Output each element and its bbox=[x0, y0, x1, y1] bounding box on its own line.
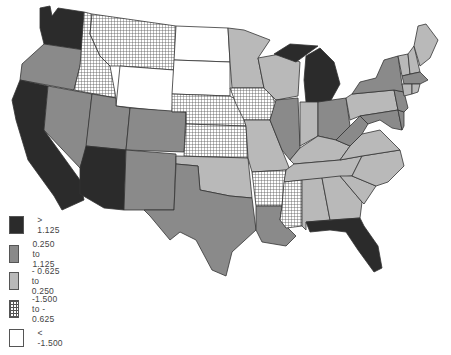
legend-item-5: < -1.500 bbox=[9, 328, 65, 348]
state-ar bbox=[252, 170, 286, 206]
state-fl bbox=[306, 218, 382, 272]
state-ks bbox=[184, 124, 248, 158]
legend-label: > 1.125 bbox=[37, 215, 62, 235]
legend-label: -1.500 to - 0.625 bbox=[32, 294, 65, 324]
state-nd bbox=[174, 26, 230, 62]
state-nm bbox=[124, 150, 176, 210]
state-co bbox=[126, 108, 186, 152]
legend-swatch-crosshatch bbox=[9, 300, 19, 318]
state-wa bbox=[40, 6, 84, 50]
state-ny bbox=[352, 56, 404, 94]
us-choropleth-map bbox=[0, 0, 451, 355]
legend-swatch-dark bbox=[9, 216, 24, 234]
state-wy bbox=[116, 66, 174, 112]
legend-label: < -1.500 bbox=[37, 328, 65, 348]
legend-swatch-light bbox=[9, 272, 19, 290]
state-az bbox=[80, 146, 126, 210]
legend-label: 0.250 to 1.125 bbox=[32, 239, 62, 269]
legend-label: - 0.625 to 0.250 bbox=[32, 266, 63, 296]
legend-item-1: > 1.125 bbox=[9, 215, 62, 235]
legend-swatch-medium bbox=[9, 245, 19, 263]
state-ms bbox=[280, 180, 302, 228]
state-ct bbox=[402, 84, 412, 96]
legend-item-2: 0.250 to 1.125 bbox=[9, 244, 62, 264]
state-sd bbox=[172, 60, 230, 96]
legend-item-4: -1.500 to - 0.625 bbox=[9, 299, 65, 319]
state-ri bbox=[412, 84, 420, 94]
state-me bbox=[414, 24, 438, 66]
legend-item-3: - 0.625 to 0.250 bbox=[9, 271, 62, 291]
legend-swatch-white bbox=[9, 329, 24, 347]
